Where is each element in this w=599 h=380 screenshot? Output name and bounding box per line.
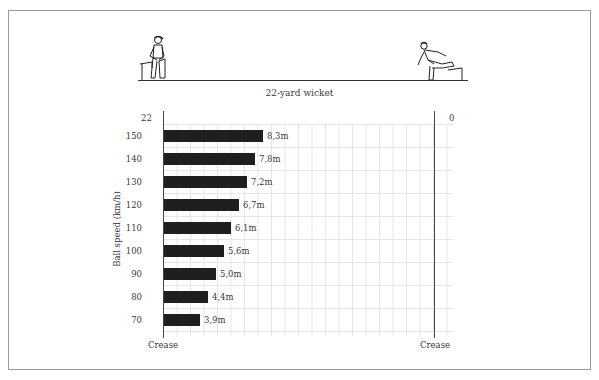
batsman-icon (138, 34, 180, 82)
bar (164, 291, 208, 303)
category-label: 150 (112, 130, 142, 142)
crease-label-left: Crease (148, 340, 178, 350)
category-label: 140 (112, 153, 142, 165)
value-label: 6,1m (235, 222, 257, 234)
right-crease-axis (434, 111, 435, 338)
bowler-icon (412, 40, 470, 82)
value-label: 5,0m (220, 268, 242, 280)
bar (164, 130, 263, 142)
bar (164, 314, 200, 326)
bar (164, 245, 224, 257)
value-label: 3,9m (204, 314, 226, 326)
category-label: 130 (112, 176, 142, 188)
category-label: 70 (112, 314, 142, 326)
crease-label-right: Crease (420, 340, 450, 350)
category-label: 120 (112, 199, 142, 211)
distance-label-22: 22 (141, 113, 152, 123)
wicket-caption: 22-yard wicket (0, 88, 599, 98)
distance-label-0: 0 (449, 113, 454, 123)
category-label: 90 (112, 268, 142, 280)
value-label: 5,6m (228, 245, 250, 257)
category-label: 80 (112, 291, 142, 303)
category-label: 100 (112, 245, 142, 257)
bar (164, 153, 255, 165)
value-label: 6,7m (243, 199, 265, 211)
bar (164, 176, 247, 188)
value-label: 7,2m (251, 176, 273, 188)
value-label: 4,4m (212, 291, 234, 303)
bar (164, 222, 231, 234)
value-label: 7,8m (259, 153, 281, 165)
pitch-line (138, 80, 468, 81)
bar (164, 268, 216, 280)
category-label: 110 (112, 222, 142, 234)
bar (164, 199, 239, 211)
value-label: 8,3m (267, 130, 289, 142)
